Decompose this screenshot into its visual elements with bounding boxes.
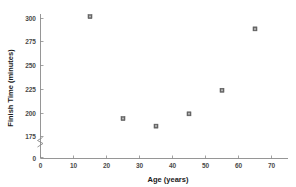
y-tick-label-275: 275: [25, 38, 36, 45]
data-point: [154, 124, 158, 128]
x-tick-label-50: 50: [202, 162, 210, 169]
y-tick-label-300: 300: [25, 15, 36, 22]
data-point: [253, 27, 257, 31]
x-tick-label-20: 20: [103, 162, 111, 169]
x-tick-label-30: 30: [136, 162, 144, 169]
y-tick-label-225: 225: [25, 86, 36, 93]
data-point: [220, 88, 224, 92]
data-point: [88, 15, 92, 19]
x-tick-label-70: 70: [268, 162, 276, 169]
y-axis-break-icon: [38, 138, 44, 148]
y-tick-label-0: 0: [32, 155, 36, 162]
y-tick-label-175: 175: [25, 133, 36, 140]
scatter-chart: 300 275 250 225 200 175 0 0 10 20 30 40 …: [0, 0, 296, 187]
y-tick-label-250: 250: [25, 62, 36, 69]
x-tick-label-60: 60: [235, 162, 243, 169]
data-point: [121, 117, 125, 121]
x-tick-label-40: 40: [169, 162, 177, 169]
data-point: [187, 112, 191, 116]
x-tick-label-0: 0: [39, 162, 43, 169]
x-axis-title: Age (years): [148, 175, 189, 184]
y-axis-title: Finish Time (minutes): [6, 49, 15, 127]
y-tick-label-200: 200: [25, 110, 36, 117]
x-tick-label-10: 10: [70, 162, 78, 169]
data-points-layer: [88, 15, 257, 129]
chart-canvas: 300 275 250 225 200 175 0 0 10 20 30 40 …: [0, 0, 296, 187]
